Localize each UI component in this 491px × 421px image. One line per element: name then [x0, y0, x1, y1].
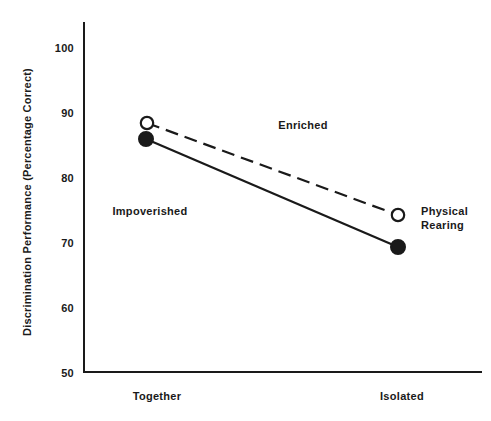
- series-label-enriched: Enriched: [278, 119, 327, 133]
- plot-area: [0, 0, 491, 421]
- series-enriched-line: [147, 123, 398, 215]
- axis-group-label-physical-rearing: Physical Rearing: [421, 205, 468, 233]
- data-point-impoverished-isolated: [391, 240, 405, 254]
- discrimination-performance-chart: Discrimination Performance (Percentage C…: [0, 0, 491, 421]
- series-impoverished: [139, 132, 405, 254]
- data-point-enriched-isolated: [392, 209, 404, 221]
- series-label-impoverished: Impoverished: [112, 205, 187, 219]
- physical-rearing-line-1: Physical: [421, 205, 468, 219]
- series-impoverished-line: [146, 139, 398, 247]
- physical-rearing-line-2: Rearing: [421, 219, 468, 233]
- data-point-enriched-together: [141, 117, 153, 129]
- data-point-impoverished-together: [139, 132, 153, 146]
